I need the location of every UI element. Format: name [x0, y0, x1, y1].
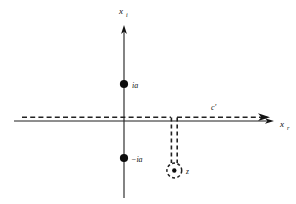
real-axis-label: x r [279, 119, 290, 131]
complex-plane-figure: x i x r ia −ia c′ z [0, 0, 296, 204]
branch-point-lower-dot [120, 154, 128, 162]
real-axis-label-subscript: r [287, 125, 290, 131]
branch-point-upper-dot [120, 80, 128, 88]
branch-point-lower-label: −ia [131, 155, 143, 164]
imaginary-axis-label-base: x [118, 6, 123, 16]
imaginary-axis-label: x i [118, 6, 128, 18]
branch-point-upper-label: ia [132, 81, 138, 90]
contour-label: c′ [211, 103, 217, 112]
contour-c-prime-group [22, 117, 262, 178]
axes-group [14, 25, 274, 198]
figure-canvas: x i x r ia −ia c′ z [0, 0, 296, 204]
pole-label: z [185, 167, 189, 176]
real-axis-label-base: x [279, 119, 284, 129]
pole-center-dot [172, 168, 176, 172]
imaginary-axis-label-subscript: i [126, 12, 128, 18]
